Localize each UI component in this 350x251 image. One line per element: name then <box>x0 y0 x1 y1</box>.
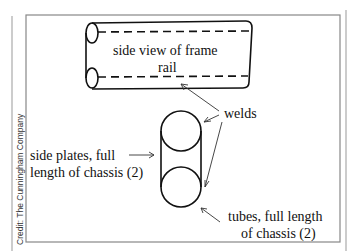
welds-label: welds <box>224 106 257 122</box>
tubes-label-1: tubes, full length <box>228 209 323 225</box>
frame-rail-label-2: rail <box>158 60 177 76</box>
side-plates-label-1: side plates, full <box>30 148 115 164</box>
image-credit: Credit: The Cunningham Company <box>15 114 25 245</box>
frame-rail-label-1: side view of frame <box>113 43 218 59</box>
cross-section-drawing <box>161 111 201 207</box>
leader-arrows <box>129 84 222 222</box>
side-plates-label-2: length of chassis (2) <box>30 165 143 181</box>
tubes-label-2: of chassis (2) <box>241 226 316 242</box>
